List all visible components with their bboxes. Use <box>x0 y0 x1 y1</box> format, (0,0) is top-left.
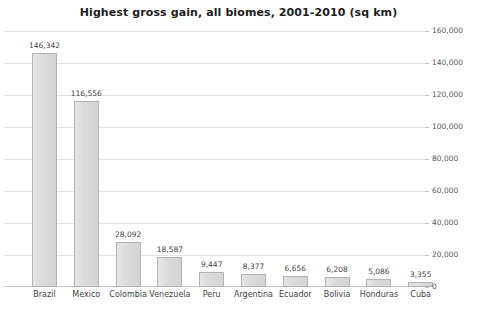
y-axis-tick-label: 100,000 <box>432 123 463 131</box>
y-axis-tick-mark <box>425 31 429 32</box>
bar-value-label: 28,092 <box>98 231 158 239</box>
gridline <box>4 31 425 32</box>
y-axis-tick-label: 20,000 <box>432 251 458 259</box>
y-axis-tick-label: 140,000 <box>432 59 463 67</box>
x-axis-label-cuba: Cuba <box>389 291 453 299</box>
bar-brazil[interactable] <box>32 53 57 287</box>
bar-venezuela[interactable] <box>157 257 182 287</box>
y-axis-tick-mark <box>425 159 429 160</box>
bar-value-label: 116,556 <box>56 90 116 98</box>
bar-value-label: 146,342 <box>15 42 75 50</box>
bar-ecuador[interactable] <box>283 276 308 287</box>
gridline <box>4 191 425 192</box>
plot-area <box>4 31 425 287</box>
bar-argentina[interactable] <box>241 274 266 287</box>
y-axis-tick-label: 160,000 <box>432 27 463 35</box>
gridline <box>4 223 425 224</box>
y-axis-tick-label: 40,000 <box>432 219 458 227</box>
y-axis-tick-label: 80,000 <box>432 155 458 163</box>
bar-colombia[interactable] <box>116 242 141 287</box>
bar-bolivia[interactable] <box>325 277 350 287</box>
bar-honduras[interactable] <box>366 279 391 287</box>
y-axis-tick-mark <box>425 223 429 224</box>
y-axis-tick-mark <box>425 63 429 64</box>
chart-title: Highest gross gain, all biomes, 2001-201… <box>0 6 477 19</box>
y-axis-tick-mark <box>425 191 429 192</box>
y-axis-tick-label: 0 <box>432 283 437 291</box>
bar-mexico[interactable] <box>74 101 99 287</box>
gridline <box>4 255 425 256</box>
bar-cuba[interactable] <box>408 282 433 287</box>
y-axis-tick-mark <box>425 255 429 256</box>
bar-value-label: 18,587 <box>140 246 200 254</box>
y-axis-tick-mark <box>425 287 429 288</box>
chart-container: Highest gross gain, all biomes, 2001-201… <box>0 0 477 310</box>
y-axis-tick-label: 120,000 <box>432 91 463 99</box>
y-axis-tick-mark <box>425 95 429 96</box>
y-axis-tick-mark <box>425 127 429 128</box>
y-axis-tick-label: 60,000 <box>432 187 458 195</box>
gridline <box>4 127 425 128</box>
bar-peru[interactable] <box>199 272 224 287</box>
bar-value-label: 3,355 <box>391 271 451 279</box>
gridline <box>4 159 425 160</box>
gridline <box>4 63 425 64</box>
